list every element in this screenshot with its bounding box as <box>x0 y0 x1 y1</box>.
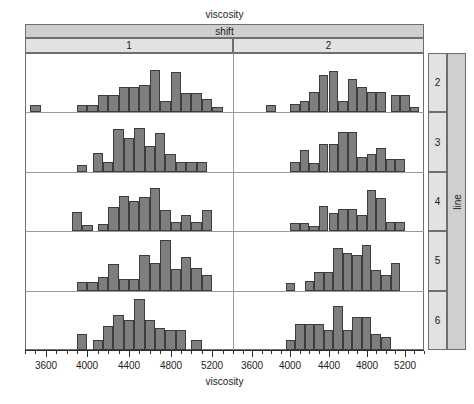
histogram-panel-shift-2-line-2 <box>233 53 424 112</box>
strip-line-level-label: 3 <box>435 137 441 148</box>
x-axis-minor-tick <box>98 351 99 354</box>
histogram-panel-shift-1-line-5 <box>25 231 233 290</box>
x-axis-tick-label: 4800 <box>356 360 378 372</box>
histogram-bar <box>395 159 405 172</box>
histogram-bar <box>305 281 315 291</box>
histogram-bar <box>338 101 348 113</box>
histogram-bar <box>98 224 108 231</box>
histogram-trellis-figure: viscosity shift 1 2 line 23456 360040004… <box>0 0 474 404</box>
histogram-bar <box>108 95 118 113</box>
x-axis-minor-tick <box>35 351 36 354</box>
histogram-bar <box>357 87 367 112</box>
histogram-bar <box>181 215 191 231</box>
histogram-bar <box>160 210 170 231</box>
histogram-bar <box>129 279 139 291</box>
x-axis-tick-label: 4400 <box>318 360 340 372</box>
strip-line-label: line <box>451 194 462 210</box>
figure-top-title: viscosity <box>25 9 424 21</box>
x-axis-minor-tick <box>223 351 224 354</box>
histogram-panel-shift-2-line-5 <box>233 231 424 290</box>
histogram-bar <box>113 129 123 172</box>
histogram-bar <box>290 104 300 113</box>
histogram-bar <box>314 324 324 350</box>
x-axis-minor-tick <box>181 351 182 354</box>
histogram-bar <box>160 240 170 291</box>
x-axis-minor-tick <box>243 351 244 354</box>
histogram-bar <box>300 223 310 232</box>
histogram-bar <box>348 79 358 112</box>
x-axis-minor-tick <box>424 351 425 354</box>
histogram-bar <box>145 320 155 350</box>
strip-line-level-label: 6 <box>435 315 441 326</box>
histogram-bar <box>357 215 367 231</box>
x-axis-major-tick <box>171 351 172 357</box>
histogram-bar <box>165 154 175 172</box>
histogram-bar <box>343 253 353 290</box>
histogram-panel-shift-1-line-6 <box>25 291 233 350</box>
histogram-bar <box>134 128 144 172</box>
histogram-bar <box>362 245 372 290</box>
histogram-bar <box>87 105 97 112</box>
x-axis-minor-tick <box>376 351 377 354</box>
x-axis-minor-tick <box>309 351 310 354</box>
histogram-bar <box>103 326 113 350</box>
strip-line-level-2: 2 <box>428 53 447 112</box>
histogram-bar <box>314 272 324 290</box>
histogram-bar <box>290 162 300 172</box>
histogram-bar <box>386 159 396 172</box>
histogram-bar <box>103 162 113 172</box>
histogram-bar <box>98 95 108 113</box>
histogram-bar <box>191 268 201 290</box>
histogram-bar <box>333 248 343 291</box>
x-axis-minor-tick <box>77 351 78 354</box>
histogram-bar <box>395 222 405 232</box>
strip-shift-level-2: 2 <box>233 38 424 53</box>
histogram-bar <box>400 95 410 113</box>
histogram-bar <box>181 257 191 290</box>
x-axis-minor-tick <box>119 351 120 354</box>
histogram-bar <box>119 196 129 231</box>
histogram-bar <box>139 85 149 113</box>
histogram-bar <box>72 212 82 231</box>
x-axis-minor-tick <box>262 351 263 354</box>
x-axis-minor-tick <box>56 351 57 354</box>
histogram-bar <box>124 320 134 350</box>
x-axis-minor-tick <box>271 351 272 354</box>
histogram-bar <box>348 209 358 231</box>
histogram-bar <box>113 315 123 350</box>
histogram-bar <box>171 72 181 112</box>
x-axis-tick-label: 4000 <box>76 360 98 372</box>
strip-line-level-4: 4 <box>428 172 447 231</box>
histogram-panel-shift-1-line-4 <box>25 172 233 231</box>
histogram-bar <box>186 162 196 172</box>
histogram-bar <box>77 334 87 350</box>
x-axis-minor-tick <box>25 351 26 354</box>
histogram-bar <box>124 138 134 172</box>
x-axis-tick-label: 3600 <box>35 360 57 372</box>
histogram-bar <box>202 99 212 112</box>
histogram-bar <box>93 153 103 172</box>
histogram-bar <box>150 263 160 291</box>
histogram-bar <box>202 210 212 231</box>
histogram-bar <box>286 340 296 350</box>
histogram-bar <box>376 198 386 231</box>
histogram-bar <box>309 163 319 172</box>
histogram-bar <box>352 317 362 350</box>
x-axis-major-tick <box>252 351 253 357</box>
histogram-bar <box>108 207 118 231</box>
histogram-panel-shift-1-line-3 <box>25 112 233 171</box>
x-axis-minor-tick <box>348 351 349 354</box>
histogram-bar <box>367 92 377 112</box>
strip-shift-level-1: 1 <box>25 38 233 53</box>
histogram-bar <box>87 282 97 291</box>
histogram-bar <box>319 206 329 232</box>
x-axis-tick-label: 5200 <box>201 360 223 372</box>
histogram-panel-shift-2-line-4 <box>233 172 424 231</box>
x-axis-minor-tick <box>300 351 301 354</box>
histogram-bar <box>300 101 310 113</box>
histogram-bar <box>108 264 118 291</box>
x-axis-major-tick <box>212 351 213 357</box>
histogram-bar <box>202 275 212 291</box>
x-axis-minor-tick <box>414 351 415 354</box>
histogram-bar <box>362 317 372 350</box>
